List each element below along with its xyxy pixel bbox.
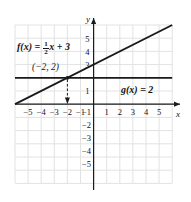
y-tick-labels-negative: −1 −2 −3 −4 −5 <box>82 107 92 170</box>
y-tick--2: −2 <box>82 120 91 130</box>
y-tick-1: 1 <box>85 86 89 96</box>
y-tick--1: −1 <box>82 107 91 117</box>
x-tick--2: −2 <box>63 107 72 117</box>
x-axis-label: x <box>175 109 180 119</box>
x-tick-1: 1 <box>105 107 109 117</box>
y-axis-label: y <box>85 14 90 24</box>
function-f-fraction: 1 2 <box>43 41 49 56</box>
function-f-numerator: 1 <box>43 41 49 48</box>
intersection-point-label: (−2, 2) <box>32 62 59 72</box>
x-tick-4: 4 <box>144 107 149 117</box>
function-f-prefix: f(x) = <box>17 41 40 52</box>
y-tick-5: 5 <box>85 34 89 44</box>
x-tick--3: −3 <box>50 107 59 117</box>
y-axis-arrowhead <box>91 18 96 24</box>
x-tick--5: −5 <box>24 107 33 117</box>
function-f-denominator: 2 <box>43 48 49 56</box>
y-tick--4: −4 <box>82 146 92 156</box>
x-tick-labels-negative: −5 −4 −3 −2 −1 <box>24 107 85 117</box>
x-axis-arrowhead <box>174 102 180 107</box>
function-g-label: g(x) = 2 <box>121 84 153 95</box>
graph-figure: −5 −4 −3 −2 −1 1 2 3 4 5 5 4 3 1 −1 −2 −… <box>0 0 191 202</box>
y-tick--5: −5 <box>82 159 91 169</box>
x-tick-3: 3 <box>131 107 135 117</box>
coordinate-plane: −5 −4 −3 −2 −1 1 2 3 4 5 5 4 3 1 −1 −2 −… <box>0 0 191 202</box>
x-tick-labels-positive: 1 2 3 4 5 <box>105 107 162 117</box>
y-tick-3: 3 <box>85 60 89 70</box>
x-tick-2: 2 <box>118 107 122 117</box>
x-tick-5: 5 <box>157 107 161 117</box>
intersection-point-marker <box>66 76 70 80</box>
y-tick--3: −3 <box>82 133 91 143</box>
function-f-suffix: x + 3 <box>49 41 70 52</box>
x-tick--4: −4 <box>37 107 47 117</box>
function-f-label: f(x) = 1 2 x + 3 <box>17 41 70 56</box>
